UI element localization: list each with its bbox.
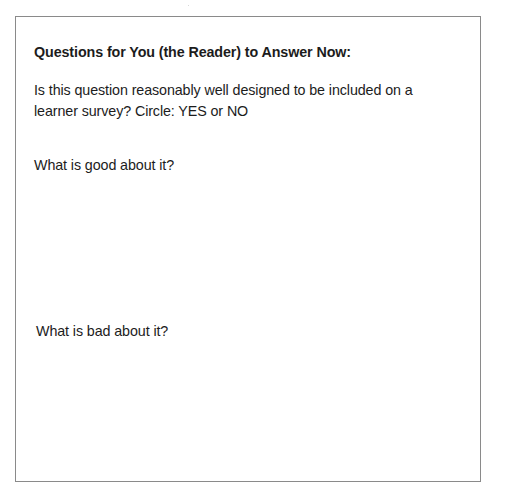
- question-good-aspects: What is good about it?: [34, 157, 174, 173]
- answer-area-bad[interactable]: [34, 347, 454, 472]
- scan-artifact: [188, 5, 189, 6]
- answer-area-good[interactable]: [34, 182, 454, 312]
- question-yes-no: Is this question reasonably well designe…: [34, 80, 454, 122]
- questions-box: Questions for You (the Reader) to Answer…: [15, 16, 481, 482]
- question-bad-aspects: What is bad about it?: [36, 323, 168, 339]
- questions-heading: Questions for You (the Reader) to Answer…: [34, 44, 351, 60]
